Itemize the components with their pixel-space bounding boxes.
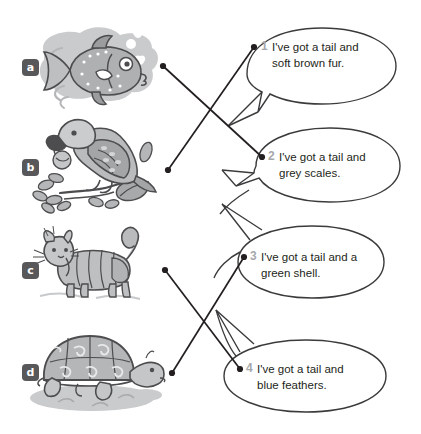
item-label-d[interactable]: d [22, 364, 39, 381]
item-label-c[interactable]: c [22, 262, 39, 279]
connector-line-a-to-2[interactable] [160, 63, 265, 160]
worksheet-page: a b c d 1 I've got a tail and soft brown… [0, 0, 421, 434]
connector-lines-layer [0, 0, 421, 434]
item-label-b[interactable]: b [22, 159, 39, 176]
connector-line-b-to-1[interactable] [165, 44, 257, 173]
connector-line-d-to-3[interactable] [169, 254, 247, 376]
item-label-a[interactable]: a [22, 59, 39, 76]
connector-line-c-to-4[interactable] [162, 267, 243, 372]
